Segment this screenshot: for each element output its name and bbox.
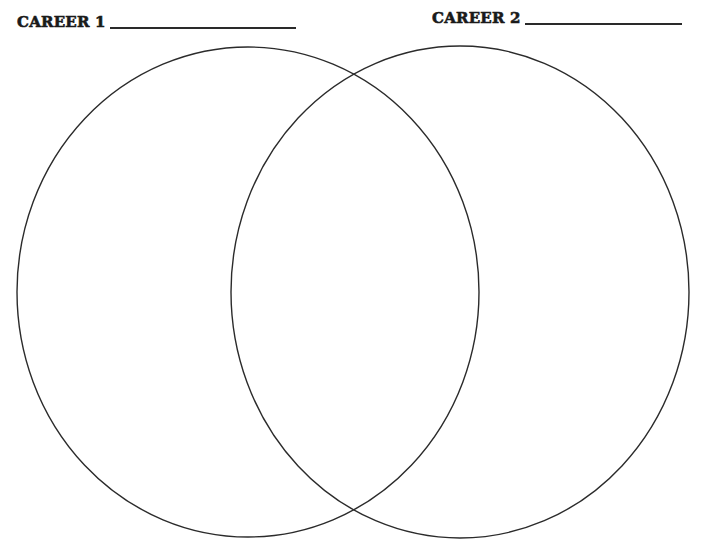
venn-diagram xyxy=(0,0,702,549)
career-1-circle[interactable] xyxy=(17,47,479,537)
career-2-circle[interactable] xyxy=(231,46,689,538)
